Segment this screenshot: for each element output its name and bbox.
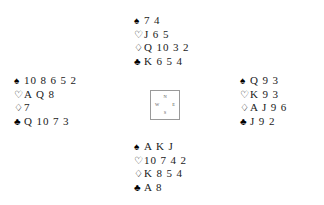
north-hearts: J 6 5 — [144, 28, 169, 42]
west-spades: 10 8 6 5 2 — [24, 74, 77, 88]
compass-label-east: E — [172, 103, 175, 108]
heart-icon: ♡ — [14, 88, 24, 102]
west-spade-line: ♠10 8 6 5 2 — [14, 74, 77, 88]
south-club-line: ♣A 8 — [134, 181, 187, 195]
compass-label-north: N — [151, 95, 179, 100]
club-icon: ♣ — [240, 115, 250, 129]
west-diamond-line: ♢7 — [14, 101, 77, 115]
south-diamonds: K 8 5 4 — [144, 167, 183, 181]
south-spade-line: ♠A K J — [134, 140, 187, 154]
diamond-icon: ♢ — [240, 101, 250, 115]
club-icon: ♣ — [134, 181, 144, 195]
south-hearts: 10 7 4 2 — [144, 154, 187, 168]
heart-icon: ♡ — [134, 28, 144, 42]
east-hearts: K 9 3 — [250, 88, 279, 102]
diamond-icon: ♢ — [134, 41, 144, 55]
hand-south: ♠A K J ♡10 7 4 2 ♢K 8 5 4 ♣A 8 — [134, 140, 187, 194]
bridge-deal-diagram: ♠7 4 ♡J 6 5 ♢Q 10 3 2 ♣K 6 5 4 ♠10 8 6 5… — [0, 0, 324, 205]
spade-icon: ♠ — [240, 74, 250, 88]
west-hearts: A Q 8 — [24, 88, 55, 102]
north-spades: 7 4 — [144, 14, 160, 28]
spade-icon: ♠ — [134, 14, 144, 28]
hand-east: ♠Q 9 3 ♡K 9 3 ♢A J 9 6 ♣J 9 2 — [240, 74, 287, 128]
north-clubs: K 6 5 4 — [144, 55, 183, 69]
heart-icon: ♡ — [240, 88, 250, 102]
east-heart-line: ♡K 9 3 — [240, 88, 287, 102]
west-club-line: ♣Q 10 7 3 — [14, 115, 77, 129]
east-spades: Q 9 3 — [250, 74, 279, 88]
east-club-line: ♣J 9 2 — [240, 115, 287, 129]
west-clubs: Q 10 7 3 — [24, 115, 69, 129]
east-spade-line: ♠Q 9 3 — [240, 74, 287, 88]
south-heart-line: ♡10 7 4 2 — [134, 154, 187, 168]
east-clubs: J 9 2 — [250, 115, 275, 129]
hand-west: ♠10 8 6 5 2 ♡A Q 8 ♢7 ♣Q 10 7 3 — [14, 74, 77, 128]
east-diamonds: A J 9 6 — [250, 101, 287, 115]
north-diamonds: Q 10 3 2 — [144, 41, 189, 55]
south-spades: A K J — [144, 140, 174, 154]
club-icon: ♣ — [134, 55, 144, 69]
east-diamond-line: ♢A J 9 6 — [240, 101, 287, 115]
compass-label-west: W — [155, 103, 159, 108]
heart-icon: ♡ — [134, 154, 144, 168]
diamond-icon: ♢ — [14, 101, 24, 115]
north-spade-line: ♠7 4 — [134, 14, 189, 28]
compass-box: N W E S — [150, 90, 180, 120]
spade-icon: ♠ — [134, 140, 144, 154]
north-diamond-line: ♢Q 10 3 2 — [134, 41, 189, 55]
spade-icon: ♠ — [14, 74, 24, 88]
north-club-line: ♣K 6 5 4 — [134, 55, 189, 69]
club-icon: ♣ — [14, 115, 24, 129]
west-diamonds: 7 — [24, 101, 30, 115]
hand-north: ♠7 4 ♡J 6 5 ♢Q 10 3 2 ♣K 6 5 4 — [134, 14, 189, 68]
south-clubs: A 8 — [144, 181, 162, 195]
west-heart-line: ♡A Q 8 — [14, 88, 77, 102]
south-diamond-line: ♢K 8 5 4 — [134, 167, 187, 181]
diamond-icon: ♢ — [134, 167, 144, 181]
north-heart-line: ♡J 6 5 — [134, 28, 189, 42]
compass-label-south: S — [151, 111, 179, 116]
